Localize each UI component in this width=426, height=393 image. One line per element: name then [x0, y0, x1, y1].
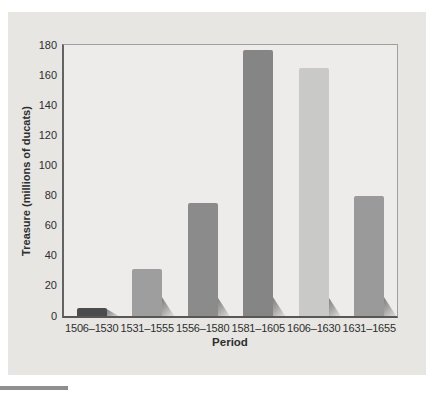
bar-6-1631–1655 [354, 196, 384, 316]
y-axis-title: Treasure (millions of ducats) [20, 106, 32, 256]
y-tick-label: 80 [0, 190, 57, 201]
bar-3-1556–1580 [188, 203, 218, 316]
bar-shadow [383, 296, 396, 316]
y-tick-label: 120 [0, 130, 57, 141]
y-tick-label: 0 [0, 311, 57, 322]
bar-2-1531–1555 [132, 269, 162, 316]
page: Treasure (millions of ducats) Period 020… [0, 0, 426, 393]
bar-shadow [161, 296, 174, 316]
y-tick-label: 100 [0, 160, 57, 171]
x-axis-title: Period [62, 336, 398, 348]
bar-shadow [272, 296, 285, 316]
y-tick-label: 180 [0, 40, 57, 51]
bar-4-1581–1605 [243, 50, 273, 316]
bar-shadow [106, 308, 119, 316]
x-tick-label: 1631–1655 [329, 322, 409, 334]
bar-5-1606–1630 [299, 68, 329, 316]
y-tick-label: 140 [0, 100, 57, 111]
y-tick-label: 20 [0, 280, 57, 291]
y-tick-label: 40 [0, 250, 57, 261]
bar-1-1506–1530 [77, 308, 107, 316]
y-tick-label: 160 [0, 70, 57, 81]
bottom-left-rule [0, 386, 68, 390]
bar-shadow [328, 296, 341, 316]
plot-area [62, 44, 398, 318]
bar-shadow [217, 296, 230, 316]
y-tick-label: 60 [0, 220, 57, 231]
